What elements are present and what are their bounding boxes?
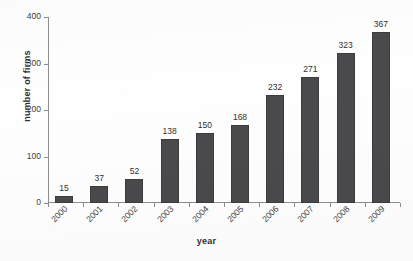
x-axis-tick-mark xyxy=(83,203,84,207)
x-axis-tick-label: 2000 xyxy=(49,204,69,224)
x-axis-tick-label: 2007 xyxy=(295,204,315,224)
bar-group: 522002 xyxy=(118,17,150,203)
bar-group: 2322006 xyxy=(259,17,291,203)
y-axis-tick-label: 0 xyxy=(36,197,41,207)
y-axis-tick-label: 100 xyxy=(27,151,41,161)
x-axis-tick-mark xyxy=(330,203,331,207)
bar-value-label: 367 xyxy=(365,19,397,29)
bar-chart-figure: number of firms 0100200300400 1520003720… xyxy=(0,0,413,261)
x-axis-tick-mark xyxy=(365,203,366,207)
bar-group: 372001 xyxy=(83,17,115,203)
bar-group: 152000 xyxy=(48,17,80,203)
bar-group: 3672009 xyxy=(365,17,397,203)
x-axis-tick-label: 2003 xyxy=(155,204,175,224)
x-axis-title: year xyxy=(0,236,413,246)
bar-value-label: 15 xyxy=(48,183,80,193)
x-axis-tick-label: 2009 xyxy=(366,204,386,224)
bar-value-label: 271 xyxy=(294,64,326,74)
bar[interactable] xyxy=(161,139,179,203)
bar[interactable] xyxy=(266,95,284,203)
x-axis-tick-label: 2006 xyxy=(260,204,280,224)
x-axis-tick-mark xyxy=(259,203,260,207)
bar-group: 1502004 xyxy=(189,17,221,203)
bar-value-label: 150 xyxy=(189,120,221,130)
y-axis-tick-label: 400 xyxy=(27,11,41,21)
bar[interactable] xyxy=(55,196,73,203)
x-axis-tick-label: 2002 xyxy=(119,204,139,224)
bar-value-label: 168 xyxy=(224,112,256,122)
x-axis-tick-label: 2004 xyxy=(190,204,210,224)
x-axis-tick-label: 2008 xyxy=(331,204,351,224)
y-axis-tick-label: 300 xyxy=(27,58,41,68)
x-axis-tick-mark xyxy=(400,203,401,207)
y-axis-title: number of firms xyxy=(22,16,32,156)
bar-value-label: 138 xyxy=(154,126,186,136)
bar[interactable] xyxy=(231,125,249,203)
x-axis-tick-mark xyxy=(294,203,295,207)
x-axis-tick-mark xyxy=(118,203,119,207)
bar-group: 1382003 xyxy=(154,17,186,203)
bar[interactable] xyxy=(90,186,108,203)
bar[interactable] xyxy=(337,53,355,203)
bar[interactable] xyxy=(372,32,390,203)
bar-group: 3232008 xyxy=(330,17,362,203)
x-axis-tick-mark xyxy=(224,203,225,207)
x-axis-tick-label: 2005 xyxy=(225,204,245,224)
bar-value-label: 232 xyxy=(259,82,291,92)
bar-group: 1682005 xyxy=(224,17,256,203)
bar-value-label: 37 xyxy=(83,173,115,183)
bar-value-label: 52 xyxy=(118,166,150,176)
bar[interactable] xyxy=(301,77,319,203)
bar[interactable] xyxy=(125,179,143,203)
bar-group: 2712007 xyxy=(294,17,326,203)
bar-value-label: 323 xyxy=(330,40,362,50)
plot-area: 0100200300400 15200037200152200213820031… xyxy=(48,17,400,203)
x-axis-tick-mark xyxy=(189,203,190,207)
x-axis-tick-mark xyxy=(154,203,155,207)
x-axis-tick-label: 2001 xyxy=(84,204,104,224)
y-axis-tick-label: 200 xyxy=(27,104,41,114)
bar[interactable] xyxy=(196,133,214,203)
x-axis-tick-mark xyxy=(48,203,49,207)
